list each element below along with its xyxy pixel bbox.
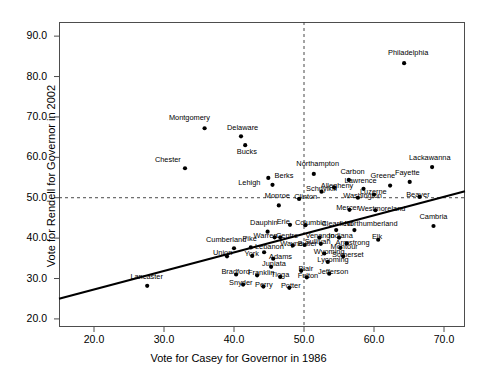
point-label-bucks: Bucks <box>237 148 257 156</box>
point-label-cambria: Cambria <box>420 213 448 221</box>
y-tick-label-50.0: 50.0 <box>3 191 47 203</box>
point-label-jefferson: Jefferson <box>318 268 348 276</box>
point-label-berks: Berks <box>275 172 294 180</box>
point-label-beaver: Beaver <box>406 191 429 199</box>
point-label-monroe: Monroe <box>265 192 290 200</box>
point-label-erie: Erie <box>277 218 290 226</box>
x-tick-label-40.0: 40.0 <box>212 333 256 345</box>
point-label-potter: Potter <box>281 282 301 290</box>
point-label-lycoming: Lycoming <box>317 256 348 264</box>
x-tick-label-20.0: 20.0 <box>72 333 116 345</box>
point-label-lehigh: Lehigh <box>238 179 260 187</box>
point-label-fulton: Fulton <box>298 272 319 280</box>
point-label-fayette: Fayette <box>395 169 420 177</box>
y-tick-label-60.0: 60.0 <box>3 150 47 162</box>
y-tick-label-70.0: 70.0 <box>3 110 47 122</box>
point-label-cumberland: Cumberland <box>206 236 246 244</box>
x-tick-label-30.0: 30.0 <box>142 333 186 345</box>
point-label-washington: Washington <box>343 192 382 200</box>
point-label-philadelphia: Philadelphia <box>388 49 428 57</box>
y-tick-label-30.0: 30.0 <box>3 272 47 284</box>
point-label-mercer: Mercer <box>336 204 359 212</box>
point-label-dauphin: Dauphin <box>250 219 278 227</box>
y-tick-label-80.0: 80.0 <box>3 70 47 82</box>
point-label-tioga: Tioga <box>271 271 289 279</box>
point-label-perry: Perry <box>255 281 273 289</box>
x-tick-label-50.0: 50.0 <box>282 333 326 345</box>
y-tick-label-20.0: 20.0 <box>3 312 47 324</box>
point-label-bradford: Bradford <box>221 268 249 276</box>
point-label-carbon: Carbon <box>340 168 364 176</box>
x-tick-label-70.0: 70.0 <box>422 333 466 345</box>
point-label-chester: Chester <box>155 156 181 164</box>
point-label-juniata: Juniata <box>262 260 286 268</box>
y-tick-label-90.0: 90.0 <box>3 29 47 41</box>
point-label-lebanon: Lebanon <box>255 243 284 251</box>
x-tick-label-60.0: 60.0 <box>352 333 396 345</box>
point-label-warren: Warren <box>254 232 278 240</box>
y-axis-title: Vote for Rendell for Governor in 2002 <box>45 36 57 316</box>
x-axis-title: Vote for Casey for Governor in 1986 <box>0 352 477 364</box>
point-label-york: York <box>245 250 260 258</box>
y-tick-label-40.0: 40.0 <box>3 231 47 243</box>
point-label-snyder: Snyder <box>229 279 252 287</box>
point-label-montgomery: Montgomery <box>169 114 210 122</box>
point-label-northampton: Northampton <box>296 160 339 168</box>
point-label-elk: Elk <box>372 233 382 241</box>
point-label-clinton: Clinton <box>294 193 317 201</box>
point-label-lackawanna: Lackawanna <box>409 154 451 162</box>
point-label-delaware: Delaware <box>227 124 258 132</box>
point-label-lancaster: Lancaster <box>130 273 162 281</box>
point-label-westmoreland: Westmoreland <box>358 205 406 213</box>
point-label-northumberland: Northumberland <box>345 220 398 228</box>
point-label-union: Union <box>213 249 232 257</box>
scatter-plot-figure: 20.030.040.050.060.070.020.030.040.050.0… <box>0 0 477 375</box>
